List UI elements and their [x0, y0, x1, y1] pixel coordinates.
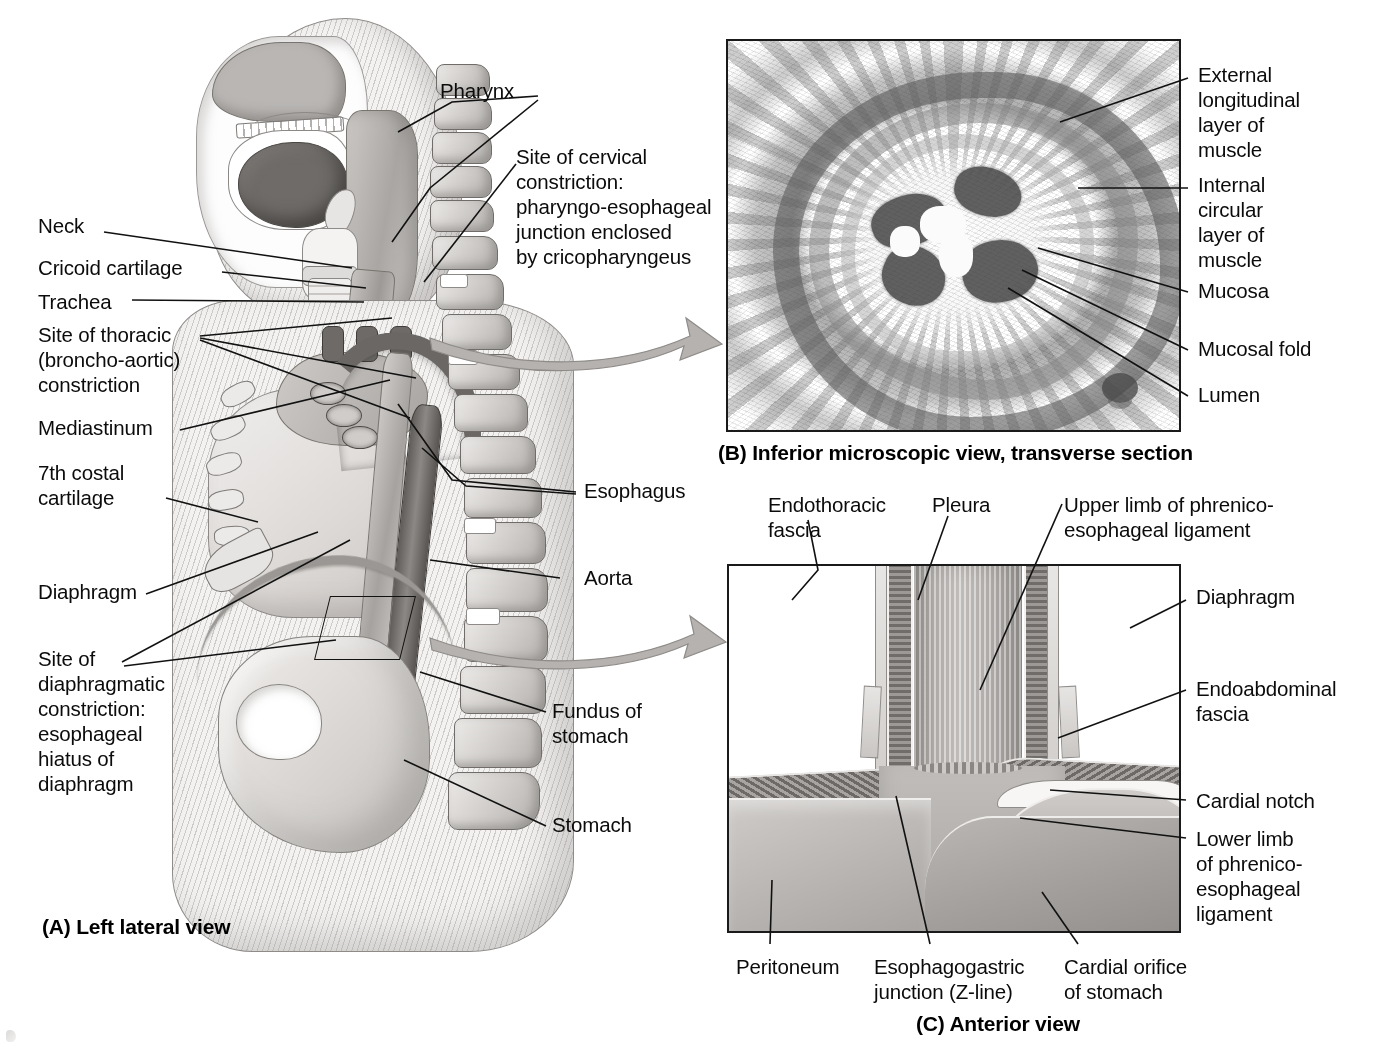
label-esophagus: Esophagus	[584, 478, 685, 503]
panel-a-caption: (A) Left lateral view	[42, 915, 230, 939]
label-diaphragm: Diaphragm	[38, 579, 137, 604]
label-stomach: Stomach	[552, 812, 632, 837]
label-esophagogastric-junction: Esophagogastric junction (Z-line)	[874, 954, 1024, 1004]
label-neck: Neck	[38, 213, 84, 238]
anatomy-plate: Pharynx Site of cervical constriction: p…	[0, 0, 1373, 1052]
label-diaphragm-c: Diaphragm	[1196, 584, 1295, 609]
label-lumen: Lumen	[1198, 382, 1260, 407]
label-endothoracic-fascia: Endothoracic fascia	[768, 492, 886, 542]
label-internal-circular-muscle: Internal circular layer of muscle	[1198, 172, 1265, 272]
label-cardial-notch: Cardial notch	[1196, 788, 1315, 813]
label-fundus-of-stomach: Fundus of stomach	[552, 698, 642, 748]
label-mediastinum: Mediastinum	[38, 415, 153, 440]
page-corner-mark	[6, 1030, 16, 1042]
label-aorta: Aorta	[584, 565, 632, 590]
label-endoabdominal-fascia: Endoabdominal fascia	[1196, 676, 1337, 726]
label-cardial-orifice: Cardial orifice of stomach	[1064, 954, 1187, 1004]
label-peritoneum: Peritoneum	[736, 954, 839, 979]
label-cervical-constriction: Site of cervical constriction: pharyngo-…	[516, 144, 711, 269]
label-lower-limb-phrenico-esophageal: Lower limb of phrenico- esophageal ligam…	[1196, 826, 1302, 926]
label-pharynx: Pharynx	[440, 78, 514, 103]
label-trachea: Trachea	[38, 289, 111, 314]
panel-b-caption: (B) Inferior microscopic view, transvers…	[718, 441, 1193, 465]
label-mucosal-fold: Mucosal fold	[1198, 336, 1311, 361]
label-pleura: Pleura	[932, 492, 990, 517]
label-diaphragmatic-constriction: Site of diaphragmatic constriction: esop…	[38, 646, 165, 796]
label-cricoid-cartilage: Cricoid cartilage	[38, 255, 182, 280]
label-mucosa: Mucosa	[1198, 278, 1269, 303]
panel-c-caption: (C) Anterior view	[916, 1012, 1080, 1036]
label-upper-limb-phrenico-esophageal: Upper limb of phrenico- esophageal ligam…	[1064, 492, 1274, 542]
label-external-longitudinal-muscle: External longitudinal layer of muscle	[1198, 62, 1300, 162]
label-thoracic-constriction: Site of thoracic (broncho-aortic) constr…	[38, 322, 180, 397]
label-7th-costal-cartilage: 7th costal cartilage	[38, 460, 124, 510]
